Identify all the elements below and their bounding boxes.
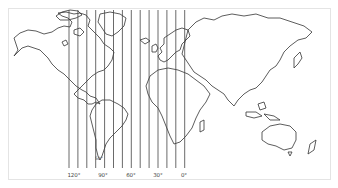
world-map: 120°90°60°30°0° 50° (0, 0, 338, 188)
new-zealand-outline (308, 140, 316, 154)
longitude-label: 120° (67, 172, 80, 178)
longitude-label: 30° (153, 172, 163, 178)
longitude-label: 90° (98, 172, 108, 178)
tasmania-outline (288, 152, 292, 156)
latitude-label: 50° (95, 156, 103, 161)
madagascar-outline (200, 120, 204, 132)
asia-outline (182, 14, 312, 106)
longitude-labels: 120°90°60°30°0° (67, 172, 187, 178)
iceland-outline (140, 38, 150, 44)
indonesia-outline (246, 102, 280, 120)
longitude-label: 60° (126, 172, 136, 178)
japan-outline (294, 52, 302, 68)
arctic-islands-outline (56, 10, 84, 46)
greenland-outline (98, 12, 126, 36)
meridian-lines (69, 10, 185, 168)
coastlines (14, 10, 316, 160)
north-america-outline (14, 12, 114, 104)
europe-outline (158, 28, 190, 62)
africa-outline (146, 68, 210, 144)
uk-outline (152, 44, 158, 52)
australia-outline (262, 124, 296, 150)
latitude-labels: 50° (95, 156, 103, 161)
longitude-label: 0° (181, 172, 187, 178)
